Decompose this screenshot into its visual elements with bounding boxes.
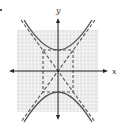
x-axis-right-arrow-icon — [103, 69, 108, 73]
y-axis-label: y — [55, 6, 61, 15]
y-axis-up-arrow-icon — [56, 18, 60, 23]
corner-mark — [0, 9, 2, 11]
x-axis-label: x — [112, 67, 117, 76]
hyperbola-graph: y x — [0, 0, 125, 128]
y-axis-down-arrow-icon — [56, 115, 60, 120]
x-axis-left-arrow-icon — [9, 69, 14, 73]
